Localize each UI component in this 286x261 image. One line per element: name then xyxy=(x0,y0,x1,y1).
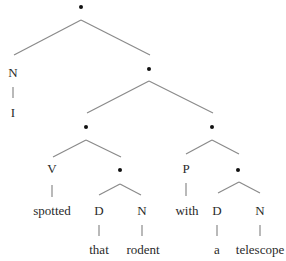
tree-category-label: N xyxy=(137,204,146,217)
tree-edges xyxy=(0,0,286,261)
syntax-tree-diagram: NIVspottedDNthatrodentPwithDNatelescope xyxy=(0,0,286,261)
tree-edge xyxy=(239,182,260,193)
tree-category-label: N xyxy=(255,204,264,217)
tree-edge xyxy=(186,140,212,154)
tree-leaf-word: spotted xyxy=(33,204,71,217)
tree-category-label: D xyxy=(94,204,103,217)
tree-edge xyxy=(212,140,239,154)
tree-category-label: N xyxy=(8,66,17,79)
tree-edge xyxy=(149,81,213,113)
tree-category-label: P xyxy=(182,162,189,175)
tree-node-dot xyxy=(118,168,122,172)
tree-edge xyxy=(87,81,149,113)
tree-edge xyxy=(86,140,121,157)
tree-leaf-word: rodent xyxy=(126,243,159,256)
tree-node-dot xyxy=(84,125,88,129)
tree-leaf-word: telescope xyxy=(236,243,284,256)
tree-node-dot xyxy=(210,125,214,129)
tree-node-dot xyxy=(236,168,240,172)
tree-edge xyxy=(120,184,141,195)
tree-leaf-word: a xyxy=(214,243,220,256)
tree-node-dot xyxy=(147,67,151,71)
tree-category-label: V xyxy=(47,162,56,175)
tree-edge xyxy=(99,184,120,195)
tree-leaf-word: that xyxy=(89,243,109,256)
tree-edge xyxy=(14,20,81,55)
tree-leaf-word: I xyxy=(11,106,15,119)
tree-leaf-word: with xyxy=(175,204,198,217)
tree-edge xyxy=(81,20,150,55)
tree-edge xyxy=(218,182,239,193)
tree-category-label: D xyxy=(212,204,221,217)
tree-node-dot xyxy=(79,5,83,9)
tree-edge xyxy=(53,140,86,157)
